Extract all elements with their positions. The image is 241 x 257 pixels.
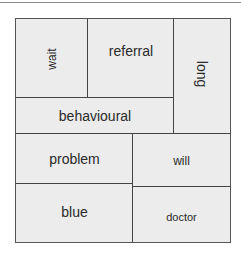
cell-wait: wait	[16, 19, 88, 98]
label-problem: problem	[49, 151, 100, 167]
divider	[16, 97, 173, 98]
label-behavioural: behavioural	[59, 108, 131, 124]
label-doctor: doctor	[166, 211, 197, 223]
treemap-chart: wait referral long behavioural problem w…	[15, 18, 231, 243]
divider	[173, 19, 174, 134]
cell-behavioural: behavioural	[16, 98, 174, 134]
divider	[132, 186, 230, 187]
label-will: will	[173, 154, 190, 168]
top-rule	[0, 2, 241, 3]
divider	[16, 183, 133, 184]
label-referral: referral	[109, 43, 153, 59]
cell-long: long	[174, 19, 230, 134]
divider	[87, 19, 88, 98]
divider	[132, 133, 133, 242]
label-blue: blue	[61, 204, 87, 220]
label-long: long	[194, 61, 210, 87]
cell-will: will	[133, 134, 230, 187]
cell-referral: referral	[88, 19, 174, 98]
cell-doctor: doctor	[133, 187, 230, 242]
divider	[16, 133, 230, 134]
cell-blue: blue	[16, 184, 133, 242]
cell-problem: problem	[16, 134, 133, 184]
label-wait: wait	[45, 48, 59, 69]
